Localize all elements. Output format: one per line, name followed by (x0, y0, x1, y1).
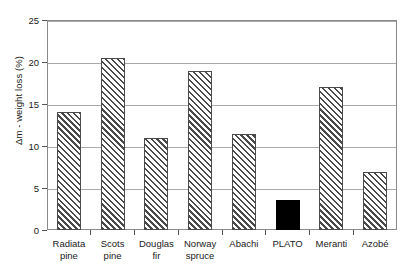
y-axis-tick-label: 25 (5, 15, 39, 26)
bar-abachi[interactable] (232, 134, 256, 230)
x-axis-label-azobe: Azobé (342, 238, 408, 250)
bar-slot (178, 20, 222, 230)
bar-slot (91, 20, 135, 230)
bar-norway-spruce[interactable] (188, 71, 212, 230)
bar-radiata-pine[interactable] (57, 112, 81, 230)
x-axis-label-line2: spruce (167, 250, 233, 262)
x-axis-tick-mark (90, 230, 91, 235)
bar-slot (222, 20, 266, 230)
bar-plato[interactable] (276, 200, 300, 230)
bar-azobe[interactable] (363, 172, 387, 230)
bar-chart: Δm - weight loss (%) 25 20 15 10 5 0 Rad… (0, 0, 412, 275)
bar-slot (266, 20, 310, 230)
y-axis-tick-label: 0 (5, 225, 39, 236)
x-axis-tick-mark (134, 230, 135, 235)
bar-scots-pine[interactable] (101, 58, 125, 230)
y-axis-tick-mark (42, 230, 47, 231)
x-axis-tick-mark (309, 230, 310, 235)
bar-douglas-fir[interactable] (144, 138, 168, 230)
y-axis-tick-label: 10 (5, 141, 39, 152)
bar-slot (310, 20, 354, 230)
x-axis-label-line1: Scots (101, 238, 125, 249)
bar-slot (353, 20, 397, 230)
y-axis-tick-label: 15 (5, 99, 39, 110)
x-axis-label-line1: Azobé (362, 238, 389, 249)
x-axis-tick-mark (222, 230, 223, 235)
x-axis-tick-mark (353, 230, 354, 235)
y-axis-tick-label: 5 (5, 183, 39, 194)
bar-slot (47, 20, 91, 230)
bar-slot (135, 20, 179, 230)
y-axis-tick-label: 20 (5, 57, 39, 68)
x-axis-tick-mark (178, 230, 179, 235)
x-axis-tick-mark (265, 230, 266, 235)
bar-meranti[interactable] (319, 87, 343, 230)
bars-layer (47, 20, 397, 230)
